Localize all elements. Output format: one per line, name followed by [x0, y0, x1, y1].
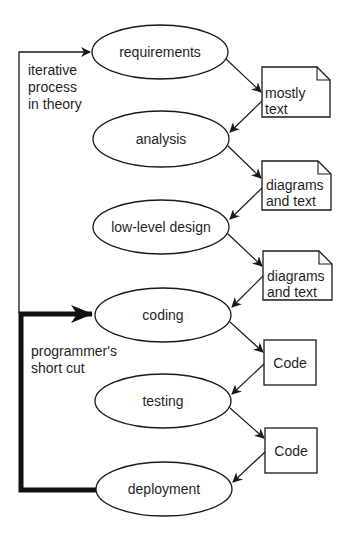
arrow-design-to-doc — [228, 234, 262, 266]
artifact-label-line-2: text — [265, 101, 288, 117]
artifact-code-1[interactable]: Code — [264, 340, 316, 385]
artifact-diagrams-and-text-1[interactable]: diagrams and text — [262, 161, 331, 210]
stage-label: analysis — [136, 131, 187, 147]
stage-label: coding — [142, 307, 183, 323]
artifact-code-2[interactable]: Code — [265, 428, 317, 473]
process-diagram: iterative process in theory programmer's… — [0, 0, 348, 534]
arrow-analysis-to-doc — [228, 146, 261, 178]
iterative-note-line-3: in theory — [28, 96, 82, 112]
arrow-code-to-deployment — [233, 452, 265, 482]
artifact-diagrams-and-text-2[interactable]: diagrams and text — [263, 251, 332, 300]
artifact-label-line-1: diagrams — [266, 177, 324, 193]
shortcut-note-line-2: short cut — [31, 360, 85, 376]
artifact-label-line-2: and text — [267, 284, 317, 300]
arrow-doc-to-analysis — [230, 101, 262, 132]
stage-deployment[interactable]: deployment — [96, 462, 232, 516]
arrow-doc-to-design — [230, 188, 262, 219]
iterative-note-line-1: iterative — [28, 62, 77, 78]
arrow-doc-to-coding — [232, 276, 263, 307]
flow-arrows — [226, 59, 265, 482]
artifact-label-line-1: diagrams — [267, 268, 325, 284]
shortcut-loop — [21, 314, 96, 490]
stage-label: requirements — [119, 44, 201, 60]
shortcut-note: programmer's short cut — [31, 343, 121, 376]
artifact-label-line-1: mostly — [265, 85, 305, 101]
stage-requirements[interactable]: requirements — [92, 25, 228, 79]
artifact-mostly-text[interactable]: mostly text — [262, 67, 330, 117]
arrow-testing-to-code — [230, 408, 264, 438]
arrow-coding-to-code — [230, 322, 263, 352]
shortcut-note-line-1: programmer's — [31, 343, 117, 359]
stage-low-level-design[interactable]: low-level design — [93, 200, 229, 254]
stage-label: low-level design — [111, 219, 211, 235]
arrow-requirements-to-doc — [226, 59, 261, 92]
artifact-label: Code — [274, 443, 308, 459]
stage-label: testing — [142, 393, 183, 409]
stage-testing[interactable]: testing — [95, 374, 231, 428]
iterative-note-line-2: process — [28, 79, 77, 95]
iterative-note: iterative process in theory — [28, 62, 82, 112]
stage-label: deployment — [128, 481, 200, 497]
artifact-label: Code — [273, 355, 307, 371]
stage-coding[interactable]: coding — [95, 288, 231, 342]
arrow-code-to-testing — [232, 364, 264, 394]
shortcut-loop-line — [21, 314, 96, 490]
artifact-label-line-2: and text — [266, 193, 316, 209]
stage-analysis[interactable]: analysis — [93, 111, 229, 167]
